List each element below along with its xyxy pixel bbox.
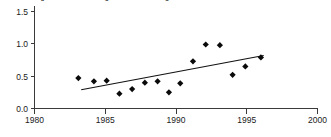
data-point	[129, 86, 135, 92]
data-point	[242, 63, 248, 69]
data-point	[104, 78, 110, 84]
x-tick-label: 1995	[237, 115, 256, 125]
x-tick-label: 1990	[167, 115, 186, 125]
scatter-plot: 1.5 1.0 0.5 0.0 1980 1985 1990 1995 2000	[0, 0, 331, 137]
data-point	[155, 78, 161, 84]
x-axis-ticks: 1980 1985 1990 1995 2000	[25, 109, 327, 126]
data-point	[203, 41, 209, 47]
trend-line	[81, 55, 264, 89]
y-tick-label: 1.0	[16, 39, 28, 49]
x-tick-label: 1985	[96, 115, 115, 125]
data-point	[166, 89, 172, 95]
y-tick-label: 1.5	[16, 7, 28, 17]
y-axis-ticks: 1.5 1.0 0.5 0.0	[16, 7, 34, 114]
data-point	[142, 80, 148, 86]
data-point	[91, 78, 97, 84]
y-tick-label: 0.5	[16, 72, 28, 82]
chart-figure: Figure: annual average index, trend regr…	[0, 0, 331, 137]
x-tick-label: 1980	[25, 115, 44, 125]
data-points-group	[75, 41, 264, 96]
data-point	[190, 58, 196, 64]
data-point	[116, 91, 122, 97]
data-point	[230, 72, 236, 78]
data-point	[177, 80, 183, 86]
data-point	[217, 42, 223, 48]
y-tick-label: 0.0	[16, 104, 28, 114]
data-point	[75, 75, 81, 81]
x-tick-label: 2000	[308, 115, 327, 125]
